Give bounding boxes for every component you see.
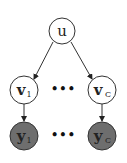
node-v1-label: v <box>16 81 27 99</box>
ellipsis-y: ••• <box>51 127 76 143</box>
node-y1-subscript: 1 <box>26 136 31 145</box>
ellipsis-v: ••• <box>51 81 76 97</box>
node-y1: y 1 <box>10 122 38 150</box>
node-v1: v 1 <box>10 76 38 104</box>
node-yc-label: y <box>93 127 104 145</box>
node-vc: v C <box>88 76 116 104</box>
node-vc-subscript: C <box>105 90 111 99</box>
graphical-model-diagram: u v 1 v C y 1 y C ••• ••• <box>0 0 127 163</box>
node-v1-subscript: 1 <box>26 90 31 99</box>
node-u-label: u <box>57 22 67 40</box>
edge-u-v1 <box>34 42 53 79</box>
node-vc-label: v <box>93 81 104 99</box>
node-y1-label: y <box>16 127 27 145</box>
node-yc-subscript: C <box>105 136 111 145</box>
node-yc: y C <box>88 122 116 150</box>
edge-u-vc <box>71 42 92 79</box>
node-u: u <box>49 18 75 44</box>
